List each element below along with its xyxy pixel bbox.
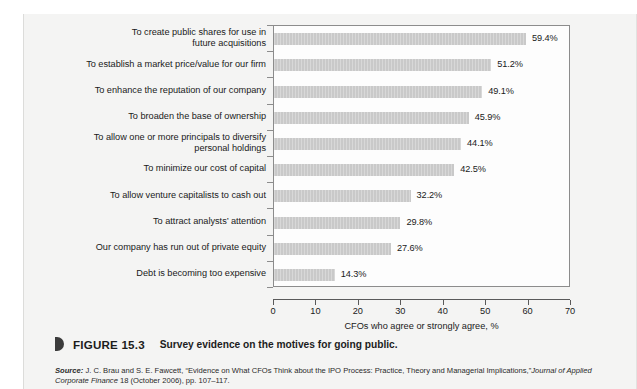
bar-value-label: 14.3%	[341, 269, 367, 279]
x-axis-tick	[443, 300, 444, 305]
figure-number: FIGURE 15.3	[73, 338, 145, 351]
y-axis-tick	[267, 130, 273, 131]
source-label: Source:	[55, 366, 83, 375]
bar	[274, 190, 411, 202]
x-axis-tick-label: 60	[522, 306, 532, 316]
y-axis-tick	[267, 208, 273, 209]
x-axis-tick	[485, 300, 486, 305]
bar	[274, 59, 491, 71]
category-axis-labels: To create public shares for use infuture…	[23, 25, 266, 287]
x-axis-tick	[570, 300, 571, 305]
source-line-1: J. C. Brau and S. E. Fawcett, “Evidence …	[83, 366, 531, 375]
x-axis-tick-label: 40	[438, 306, 448, 316]
bar-value-label: 42.5%	[460, 164, 486, 174]
category-label: To enhance the reputation of our company	[23, 85, 266, 96]
bar	[274, 33, 526, 45]
bar	[274, 164, 454, 176]
bar	[274, 269, 335, 281]
bar-value-label: 44.1%	[467, 138, 493, 148]
textbook-page-panel: To create public shares for use infuture…	[23, 14, 637, 389]
bar	[274, 86, 482, 98]
x-axis-tick	[400, 300, 401, 305]
bar-value-label: 32.2%	[417, 190, 443, 200]
y-axis-tick	[267, 182, 273, 183]
bar	[274, 243, 391, 255]
x-axis-tick	[528, 300, 529, 305]
bar-value-label: 51.2%	[497, 59, 523, 69]
category-label: To attract analysts’ attention	[23, 216, 266, 227]
x-axis-tick-label: 10	[310, 306, 320, 316]
x-axis-tick-label: 0	[270, 306, 275, 316]
category-label: Debt is becoming too expensive	[23, 268, 266, 279]
y-axis-tick	[267, 51, 273, 52]
category-label: To minimize our cost of capital	[23, 163, 266, 174]
category-label: To create public shares for use infuture…	[23, 27, 266, 50]
source-line-2: 18 (October 2006), pp. 107–117.	[118, 376, 230, 385]
bar-value-label: 27.6%	[397, 243, 423, 253]
bar-value-label: 59.4%	[532, 33, 558, 43]
category-label: To establish a market price/value for ou…	[23, 59, 266, 70]
figure-title: Survey evidence on the motives for going…	[160, 339, 398, 350]
category-label: Our company has run out of private equit…	[23, 242, 266, 253]
bar	[274, 112, 469, 124]
category-label: To allow one or more principals to diver…	[23, 132, 266, 155]
x-axis-tick-label: 30	[395, 306, 405, 316]
triangle-marker-icon	[55, 337, 64, 351]
bar-value-label: 29.8%	[406, 217, 432, 227]
source-note: Source: J. C. Brau and S. E. Fawcett, “E…	[55, 366, 623, 387]
y-axis-tick	[267, 77, 273, 78]
y-axis-tick	[267, 156, 273, 157]
figure-chart: To create public shares for use infuture…	[23, 14, 637, 324]
x-axis-tick	[358, 300, 359, 305]
x-axis-tick	[315, 300, 316, 305]
x-axis-tick	[273, 300, 274, 305]
x-axis-title: CFOs who agree or strongly agree, %	[273, 321, 570, 331]
y-axis-tick	[267, 287, 273, 288]
x-axis-tick-label: 70	[565, 306, 575, 316]
bar-value-label: 45.9%	[475, 112, 501, 122]
y-axis-tick	[267, 104, 273, 105]
category-label: To allow venture capitalists to cash out	[23, 190, 266, 201]
bar	[274, 138, 461, 150]
x-axis-tick-label: 20	[353, 306, 363, 316]
figure-caption: FIGURE 15.3 Survey evidence on the motiv…	[55, 337, 398, 351]
bar-value-label: 49.1%	[488, 86, 514, 96]
y-axis-tick	[267, 261, 273, 262]
y-axis-tick	[267, 235, 273, 236]
bar	[274, 217, 400, 229]
x-axis-tick-label: 50	[480, 306, 490, 316]
plot-area: 59.4%51.2%49.1%45.9%44.1%42.5%32.2%29.8%…	[273, 25, 570, 287]
x-axis-line	[273, 299, 570, 300]
category-label: To broaden the base of ownership	[23, 111, 266, 122]
y-axis-tick	[267, 25, 273, 26]
